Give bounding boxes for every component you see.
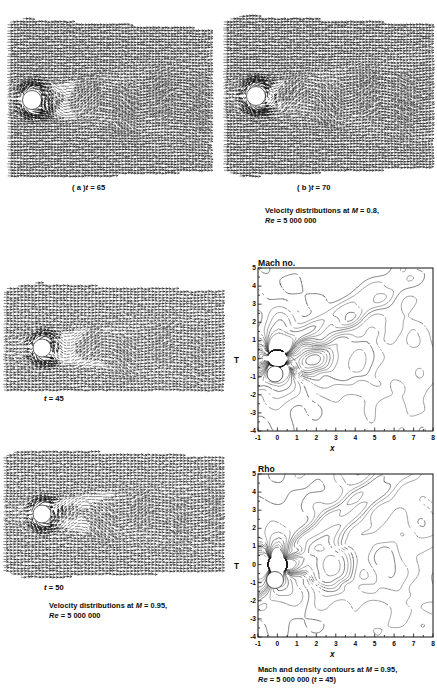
contour-line [335,551,336,552]
contour-line [264,556,265,557]
contour-line [297,548,298,549]
caption-bottom-line2: Re = 5 000 000 (t = 45) [258,675,336,685]
contour-line [283,549,284,552]
contour-line [292,326,315,332]
contour-line [353,549,354,550]
contour-line [314,591,315,592]
y-tick-label: -3 [243,615,256,622]
contour-line [288,604,290,605]
contour-line [303,370,305,371]
contour-line [293,335,295,336]
contour-line [264,354,267,355]
contour-line [428,330,429,331]
contour-line [408,523,409,526]
contour-line [368,588,386,593]
contour-line [340,486,341,487]
contour-line [342,548,344,549]
contour-line [311,383,312,384]
contour-line [261,621,262,622]
contour-line [267,299,269,300]
contour-line [346,549,347,550]
contour-line [360,570,366,578]
contour-line [371,565,372,566]
contour-line [276,594,277,595]
contour-line [300,577,301,578]
contour-line [312,569,313,570]
contour-line [269,381,270,382]
contour-line [345,312,354,320]
contour-line [388,548,389,549]
contour-line [364,592,367,593]
contour-line [302,380,303,381]
contour-line [283,289,284,290]
contour-line [415,533,416,534]
contour-line [362,508,403,535]
contour-line [412,337,420,348]
contour-line [267,539,268,541]
contour-line [278,602,282,603]
contour-line [290,406,302,419]
contour-line [287,300,288,301]
axis-label-y-rho: T [234,562,239,571]
contour-line [280,329,282,330]
contour-line [311,567,312,568]
contour-line [305,294,314,301]
contour-line [374,632,375,633]
y-tick-label: -2 [243,597,256,604]
contour-line [364,400,365,402]
contour-line [302,316,304,317]
contour-line [384,340,385,342]
contour-line [327,575,329,576]
contour-line [296,581,297,584]
contour-line [264,361,268,362]
contour-line [306,355,317,362]
contour-line [303,376,305,377]
contour-line [267,629,268,632]
contour-line [268,422,269,423]
contour-rho-svg [232,472,437,647]
contour-line [305,587,306,588]
x-tick-label: 6 [386,640,402,647]
contour-line [407,513,408,516]
contour-line [258,553,262,554]
contour-line [262,351,263,352]
contour-line [292,578,294,579]
contour-line [284,544,285,554]
contour-line [295,373,296,374]
contour-line [288,561,299,570]
contour-line [409,526,410,527]
contour-line [348,546,350,547]
contour-line [270,599,271,601]
contour-line [305,379,307,380]
contour-line [263,340,264,341]
panel-velocity-field-t50 [4,452,220,580]
contour-line [289,574,293,575]
contour-line [406,406,407,409]
contour-line [299,368,300,369]
contour-line [337,350,338,355]
contour-line [315,578,316,580]
contour-line [286,576,287,577]
contour-line [304,374,306,375]
contour-line [263,398,264,400]
contour-line [381,601,384,602]
contour-line [291,573,303,574]
contour-line [293,372,294,373]
contour-line [314,341,317,342]
x-tick-label: 3 [328,640,344,647]
contour-line [265,390,266,391]
contour-line [314,620,318,621]
contour-line [419,335,420,337]
contour-line [295,475,296,477]
contour-line [324,590,327,591]
contour-line [364,352,365,353]
contour-line [398,550,399,553]
panel-label-b-var: t [311,183,314,192]
contour-line [428,507,429,508]
contour-line [347,338,348,339]
contour-line [258,314,262,327]
caption-midleft-re-symbol: Re [49,611,59,620]
y-tick-label: 4 [243,488,256,495]
contour-line [323,587,325,588]
axis-label-y-mach: T [234,356,239,365]
